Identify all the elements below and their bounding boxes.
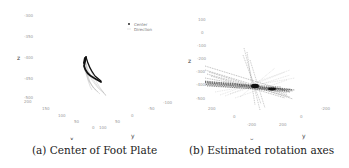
y-tick: 200 <box>279 122 287 127</box>
caption-b: (b) Estimated rotation axes <box>189 144 334 156</box>
y-tick: 0 <box>131 113 134 118</box>
caption-a: (a) Center of Foot Plate <box>32 144 157 156</box>
x-axis-label: x <box>70 135 74 140</box>
center-marker-icon <box>128 23 130 25</box>
x-tick: 0 <box>92 125 95 130</box>
y-axis-label: y <box>131 132 135 140</box>
x-tick: 0 <box>233 114 236 119</box>
y-tick: 100 <box>99 125 107 130</box>
x-tick: -200 <box>247 122 257 127</box>
z-tick: -450 <box>24 76 34 81</box>
z-tick: -350 <box>24 34 34 39</box>
z-tick: -300 <box>24 13 34 18</box>
rotation-axes <box>205 48 295 110</box>
z-axis-label: z <box>188 57 191 64</box>
z-tick: -400 <box>196 82 206 87</box>
x-tick: 200 <box>208 106 216 111</box>
y-tick: -50 <box>148 106 155 111</box>
x-axis-label: x <box>250 136 254 140</box>
y-tick: 0 <box>300 114 303 119</box>
z-axis-label: z <box>17 54 20 61</box>
legend-direction-label: Direction <box>134 27 153 32</box>
z-tick: -400 <box>24 55 34 60</box>
z-tick: 0 <box>201 30 204 35</box>
x-tick: 50 <box>74 119 80 124</box>
y-tick: 50 <box>115 119 121 124</box>
plot-3d-b: 100 0 -100 -200 -300 -400 -500 z 200 0 -… <box>175 0 349 140</box>
chart-center-of-foot-plate: -300 -350 -400 -450 -500 200 z 150 100 5… <box>0 0 175 140</box>
chart-estimated-rotation-axes: 100 0 -100 -200 -300 -400 -500 z 200 0 -… <box>175 0 349 140</box>
y-axis-label: y <box>302 132 306 140</box>
plot-3d-a: -300 -350 -400 -450 -500 200 z 150 100 5… <box>0 0 175 140</box>
z-tick: -200 <box>197 56 207 61</box>
direction-lines <box>84 58 106 96</box>
y-tick: -100 <box>163 100 173 105</box>
y-tick: -200 <box>321 106 331 111</box>
z-tick: -300 <box>196 69 206 74</box>
z-tick: -500 <box>196 96 206 101</box>
legend: Center Direction <box>127 22 153 32</box>
x-tick: 100 <box>58 113 66 118</box>
z-tick: 100 <box>198 17 206 22</box>
z-tick: -100 <box>197 43 207 48</box>
x-tick: 150 <box>42 106 50 111</box>
z-tick: 200 <box>24 99 32 104</box>
